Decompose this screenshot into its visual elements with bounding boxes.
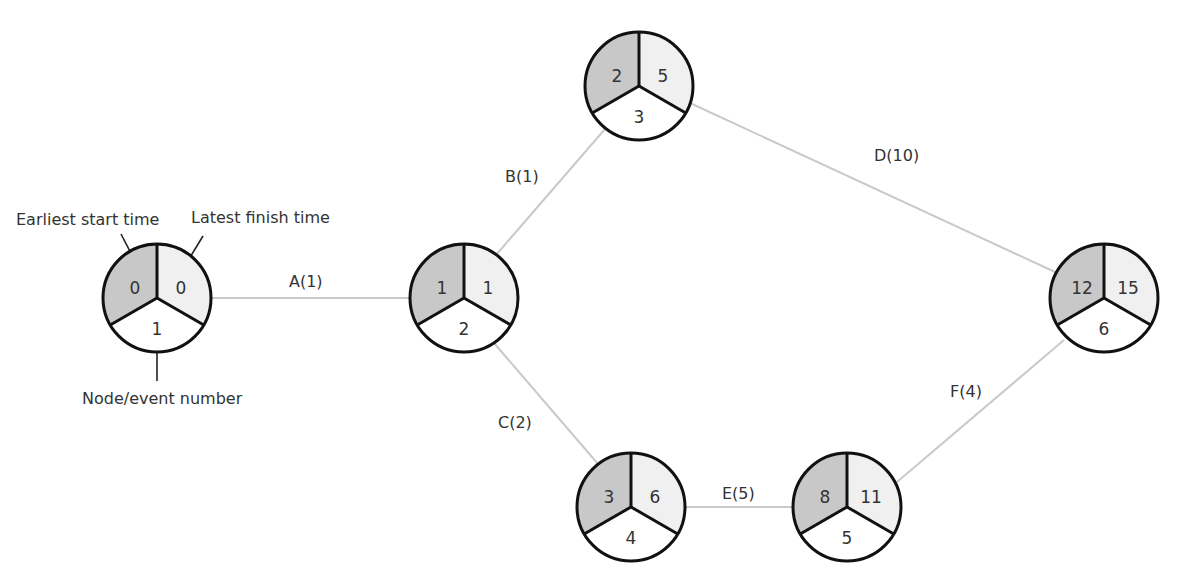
node-number-value: 1 xyxy=(152,319,163,339)
edge-labels: A(1) B(1) C(2) D(10) E(5) F(4) xyxy=(289,146,982,503)
edge-label-d: D(10) xyxy=(874,146,919,165)
edge-label-e: E(5) xyxy=(722,484,755,503)
edge-label-c: C(2) xyxy=(498,413,532,432)
node-5: 8115 xyxy=(793,453,901,561)
edges xyxy=(211,103,1064,507)
earliest-start-value: 0 xyxy=(130,278,141,298)
latest-finish-value: 6 xyxy=(650,487,661,507)
edge-f xyxy=(897,340,1064,482)
earliest-start-label: Earliest start time xyxy=(16,210,159,229)
latest-finish-value: 15 xyxy=(1117,278,1139,298)
latest-finish-value: 11 xyxy=(860,487,882,507)
latest-finish-value: 0 xyxy=(176,278,187,298)
earliest-start-value: 2 xyxy=(612,66,623,86)
edge-label-a: A(1) xyxy=(289,272,323,291)
latest-finish-label: Latest finish time xyxy=(191,208,330,227)
latest-finish-value: 5 xyxy=(658,66,669,86)
node-number-label: Node/event number xyxy=(82,389,243,408)
node-number-value: 6 xyxy=(1099,319,1110,339)
earliest-start-value: 1 xyxy=(437,278,448,298)
node-number-value: 4 xyxy=(626,528,637,548)
network-diagram: A(1) B(1) C(2) D(10) E(5) F(4) Earliest … xyxy=(0,0,1179,580)
node-4: 364 xyxy=(577,453,685,561)
node-number-value: 5 xyxy=(842,528,853,548)
edge-d xyxy=(690,103,1055,272)
earliest-start-value: 8 xyxy=(820,487,831,507)
edge-label-f: F(4) xyxy=(950,382,982,401)
latest-finish-value: 1 xyxy=(483,278,494,298)
node-1: 001 xyxy=(103,244,211,352)
edge-b xyxy=(496,129,605,255)
node-number-value: 2 xyxy=(459,319,470,339)
nodes: 001112253364811512156 xyxy=(103,32,1158,561)
node-3: 253 xyxy=(585,32,693,140)
node-6: 12156 xyxy=(1050,244,1158,352)
earliest-start-value: 3 xyxy=(604,487,615,507)
node-2: 112 xyxy=(410,244,518,352)
node-number-value: 3 xyxy=(634,107,645,127)
edge-c xyxy=(494,343,598,464)
edge-label-b: B(1) xyxy=(505,167,539,186)
earliest-start-value: 12 xyxy=(1071,278,1093,298)
